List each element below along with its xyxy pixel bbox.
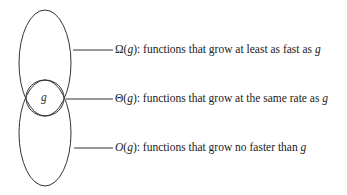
omega-description: functions that grow at least as fast as (143, 43, 312, 55)
omega-arg: g (127, 43, 133, 55)
center-g-label: g (41, 91, 47, 103)
theta-tail: g (322, 92, 328, 104)
theta-arg: g (127, 92, 133, 104)
theta-description: functions that grow at the same rate as (143, 92, 320, 104)
bigo-label: O(g): functions that grow no faster than… (115, 142, 306, 154)
bigo-arg: g (127, 141, 133, 153)
omega-label: Ω(g): functions that grow at least as fa… (115, 44, 321, 56)
omega-tail: g (315, 43, 321, 55)
bigo-symbol: O (115, 141, 123, 153)
bigo-description: functions that grow no faster than (143, 141, 298, 153)
omega-symbol: Ω (115, 43, 124, 55)
theta-symbol: Θ (115, 92, 123, 104)
bigo-tail: g (301, 141, 307, 153)
theta-label: Θ(g): functions that grow at the same ra… (115, 93, 328, 105)
